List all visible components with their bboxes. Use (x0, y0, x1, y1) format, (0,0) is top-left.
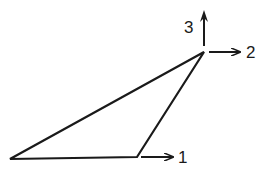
triangle-diagram: 1 2 3 (0, 0, 274, 172)
arrow-1-label: 1 (178, 148, 187, 167)
arrow-3-label: 3 (184, 18, 193, 37)
arrow-2-label: 2 (246, 43, 255, 62)
triangle (10, 52, 204, 159)
